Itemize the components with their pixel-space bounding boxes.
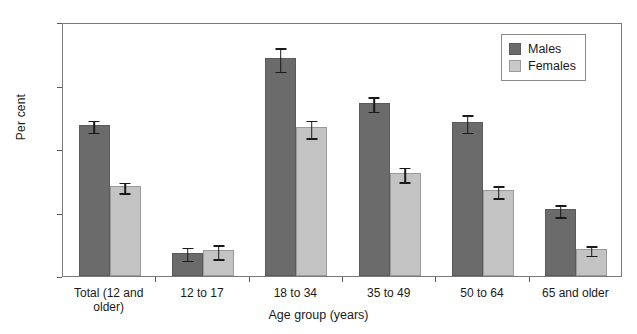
error-bar-cap — [462, 115, 473, 117]
error-bar — [560, 205, 562, 217]
x-group-label: 65 and older — [517, 286, 634, 300]
bar — [359, 103, 390, 276]
error-bar-cap — [89, 133, 100, 135]
chart-legend: Males Females — [501, 34, 586, 81]
legend-item-females[interactable]: Females — [509, 57, 576, 74]
error-bar-cap — [493, 198, 504, 200]
error-bar-cap — [275, 48, 286, 50]
bar-chart-figure: Per cent 010203040 Total (12 and older)1… — [0, 0, 637, 334]
error-bar-cap — [275, 72, 286, 74]
error-bar-cap — [306, 121, 317, 123]
error-bar-cap — [555, 217, 566, 219]
error-bar-cap — [120, 183, 131, 185]
x-tick-mark — [529, 277, 530, 282]
error-bar-cap — [586, 256, 597, 258]
error-bar — [280, 48, 282, 71]
error-bar-cap — [400, 182, 411, 184]
males-swatch-icon — [509, 43, 521, 55]
error-bar-cap — [182, 248, 193, 250]
error-bar-cap — [306, 138, 317, 140]
error-bar-cap — [89, 121, 100, 123]
error-bar-cap — [120, 193, 131, 195]
y-tick-mark — [57, 277, 62, 278]
error-bar-cap — [586, 246, 597, 248]
legend-item-males[interactable]: Males — [509, 40, 576, 57]
error-bar — [218, 245, 220, 259]
x-tick-mark — [342, 277, 343, 282]
bar — [545, 209, 576, 276]
error-bar — [187, 248, 189, 261]
error-bar-cap — [369, 97, 380, 99]
bar — [483, 190, 514, 276]
x-tick-mark — [155, 277, 156, 282]
error-bar — [498, 186, 500, 198]
error-bar-cap — [213, 245, 224, 247]
x-tick-mark — [249, 277, 250, 282]
error-bar-cap — [369, 112, 380, 114]
error-bar — [373, 97, 375, 112]
error-bar-cap — [400, 168, 411, 170]
x-axis-label: Age group (years) — [0, 308, 637, 322]
bar — [79, 125, 110, 276]
error-bar-cap — [462, 133, 473, 135]
legend-label-females: Females — [528, 59, 576, 73]
x-tick-mark — [435, 277, 436, 282]
error-bar — [467, 115, 469, 132]
bar — [110, 186, 141, 276]
y-axis-label: Per cent — [14, 72, 28, 162]
bar — [452, 122, 483, 276]
bar — [390, 173, 421, 276]
error-bar — [404, 168, 406, 183]
bar — [296, 127, 327, 276]
error-bar — [311, 121, 313, 139]
error-bar-cap — [555, 205, 566, 207]
bar — [265, 58, 296, 276]
error-bar-cap — [493, 186, 504, 188]
error-bar-cap — [213, 259, 224, 261]
legend-label-males: Males — [528, 42, 561, 56]
females-swatch-icon — [509, 60, 521, 72]
error-bar-cap — [182, 261, 193, 263]
error-bar — [93, 121, 95, 133]
